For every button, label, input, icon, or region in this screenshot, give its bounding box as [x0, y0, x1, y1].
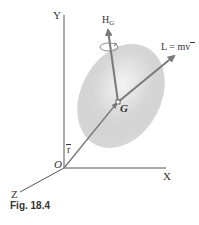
v-bar-overline: [190, 42, 195, 43]
angular-momentum-subscript: G: [109, 19, 114, 27]
figure-caption: Fig. 18.4: [10, 200, 50, 211]
linear-momentum-label: L = mv: [161, 41, 190, 52]
z-axis-label: Z: [11, 188, 18, 200]
rotation-arrowhead-icon: [114, 43, 117, 46]
position-vector-label: r: [66, 144, 71, 155]
z-axis: [20, 168, 64, 192]
origin-label: O: [54, 158, 62, 170]
rigid-body-diagram: [0, 0, 199, 225]
x-axis-label: X: [163, 170, 171, 182]
center-of-mass-label: G: [120, 102, 128, 114]
y-axis-label: Y: [53, 9, 61, 21]
angular-momentum-label: HG: [102, 14, 114, 27]
